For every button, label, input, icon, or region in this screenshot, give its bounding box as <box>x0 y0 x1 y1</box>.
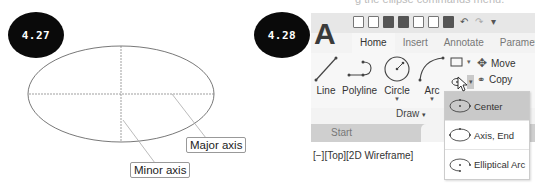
polyline-icon <box>345 55 375 83</box>
menu-item-elliptical-arc[interactable]: Elliptical Arc <box>445 150 529 179</box>
line-button[interactable]: Line <box>313 55 339 96</box>
ribbon-tabs: Home Insert Annotate Parametric <box>352 33 535 53</box>
tab-annotate[interactable]: Annotate <box>436 33 492 53</box>
move-label: Move <box>491 58 515 69</box>
arc-icon <box>417 55 447 83</box>
menu-item-elliptical-arc-label: Elliptical Arc <box>474 159 525 170</box>
arc-label: Arc <box>425 85 440 96</box>
line-label: Line <box>317 85 336 96</box>
quick-access-toolbar: ↶ ↷ ▾ <box>311 13 535 33</box>
menu-item-axis-end[interactable]: Axis, End <box>445 121 529 150</box>
ellipse-center-icon <box>448 97 472 115</box>
tab-insert[interactable]: Insert <box>395 33 436 53</box>
file-tab-start[interactable]: Start <box>331 124 352 142</box>
polyline-button[interactable]: Polyline <box>342 55 377 96</box>
draw-panel-label: Draw <box>396 108 419 119</box>
tab-parametric[interactable]: Parametric <box>492 33 535 53</box>
publish-icon[interactable] <box>413 16 424 28</box>
print-icon[interactable] <box>443 16 454 28</box>
elliptical-arc-icon <box>448 156 472 174</box>
customize-icon[interactable]: ▾ <box>488 16 499 28</box>
arc-button[interactable]: Arc ▼ <box>417 55 447 102</box>
menu-item-center[interactable]: Center <box>445 92 529 121</box>
plot-icon[interactable] <box>428 16 439 28</box>
figure-badge-4-28: 4.28 <box>254 12 310 58</box>
circle-dropdown-caret[interactable]: ▼ <box>394 96 400 102</box>
arc-dropdown-caret[interactable]: ▼ <box>429 96 435 102</box>
new-icon[interactable] <box>353 16 364 28</box>
copy-icon: ⚭ <box>477 74 485 85</box>
move-button[interactable]: ✥ Move <box>477 56 515 70</box>
mouse-cursor-icon <box>457 76 469 92</box>
save-icon[interactable] <box>383 16 394 28</box>
polyline-label: Polyline <box>342 85 377 96</box>
circle-button[interactable]: Circle ▼ <box>383 55 411 102</box>
circle-label: Circle <box>384 85 410 96</box>
rectangle-dropdown-caret[interactable]: ▾ <box>467 58 471 66</box>
ellipse-dropdown-menu: Center Axis, End Elliptical Arc <box>444 91 530 180</box>
copy-button[interactable]: ⚭ Copy <box>477 74 512 85</box>
save-as-icon[interactable] <box>398 16 409 28</box>
rectangle-button[interactable]: ▾ <box>450 57 471 67</box>
major-axis-leader <box>172 94 206 138</box>
app-logo[interactable]: A <box>314 19 335 49</box>
circle-icon <box>383 55 411 83</box>
minor-axis-callout: Minor axis <box>130 162 190 178</box>
open-icon[interactable] <box>368 16 379 28</box>
ellipse-axis-end-icon <box>448 126 472 144</box>
viewport-controls[interactable]: [−][Top][2D Wireframe] <box>313 150 413 161</box>
redo-icon[interactable]: ↷ <box>473 16 484 28</box>
undo-icon[interactable]: ↶ <box>458 16 469 28</box>
tab-home[interactable]: Home <box>352 33 395 53</box>
menu-item-center-label: Center <box>474 101 503 112</box>
draw-panel-caret: ▾ <box>422 111 426 118</box>
move-icon: ✥ <box>477 56 487 70</box>
line-icon <box>313 55 339 83</box>
menu-item-axis-end-label: Axis, End <box>474 130 514 141</box>
major-axis-callout: Major axis <box>186 137 246 153</box>
copy-label: Copy <box>489 74 512 85</box>
caption-fragment: g the ellipse commands menu. <box>355 0 504 5</box>
rectangle-icon <box>450 57 464 67</box>
